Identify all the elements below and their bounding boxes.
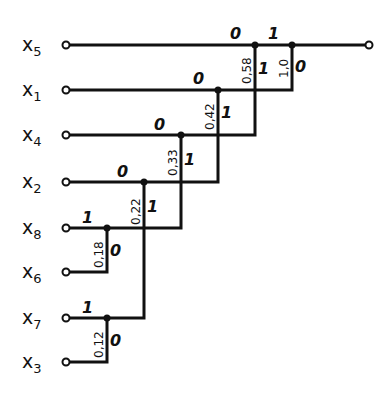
bit-x8-upper: 1 [82,208,93,227]
bit-x6-lower: 0 [110,241,121,260]
terminal-x1 [63,87,70,94]
terminal-x3 [63,359,70,366]
bit-0-22-lower: 1 [147,197,158,216]
terminal-output [366,42,373,49]
bit-0-58-lower: 1 [258,59,269,78]
label-x6: x6 [22,260,42,286]
label-x8: x8 [22,216,42,242]
terminal-x4 [63,132,70,139]
label-x4: x4 [22,123,42,149]
bit-root-upper: 1 [268,24,279,43]
prob-1-0: 1,0 [277,59,291,78]
node-1-0 [289,42,296,49]
terminal-x8 [63,225,70,232]
node-0-33 [178,132,185,139]
terminal-x5 [63,42,70,49]
input-labels: x5 x1 x4 x2 x8 x6 x7 x3 [22,33,42,376]
terminal-x6 [63,269,70,276]
terminal-x2 [63,179,70,186]
prob-0-22: 0,22 [129,198,143,225]
prob-0-33: 0,33 [166,149,180,176]
prob-0-42: 0,42 [203,103,217,130]
label-x7: x7 [22,306,42,332]
node-0-12 [104,315,111,322]
bit-0-33-lower: 1 [184,150,195,169]
bit-x2-upper: 0 [117,162,128,181]
label-x3: x3 [22,350,42,376]
label-x1: x1 [22,78,42,104]
node-0-58 [252,42,259,49]
bit-x4-upper: 0 [154,115,165,134]
terminal-x7 [63,315,70,322]
bit-root-lower: 0 [295,57,306,76]
label-x2: x2 [22,170,42,196]
bit-x5-upper: 0 [230,24,241,43]
bit-x7-upper: 1 [82,298,93,317]
label-x5: x5 [22,33,42,59]
probability-labels: 0,12 0,18 0,22 0,33 0,42 0,58 1,0 [92,57,291,358]
bit-labels: 1 0 1 0 0 1 0 1 0 1 0 1 1 0 [82,24,306,350]
node-0-42 [215,87,222,94]
bit-x1-upper: 0 [193,69,204,88]
node-0-18 [104,225,111,232]
node-0-22 [141,179,148,186]
huffman-tree-diagram: x5 x1 x4 x2 x8 x6 x7 x3 [0,0,391,395]
bit-0-42-lower: 1 [221,103,232,122]
prob-0-58: 0,58 [240,57,254,84]
prob-0-18: 0,18 [92,241,106,268]
prob-0-12: 0,12 [92,331,106,358]
bit-x3-lower: 0 [110,331,121,350]
